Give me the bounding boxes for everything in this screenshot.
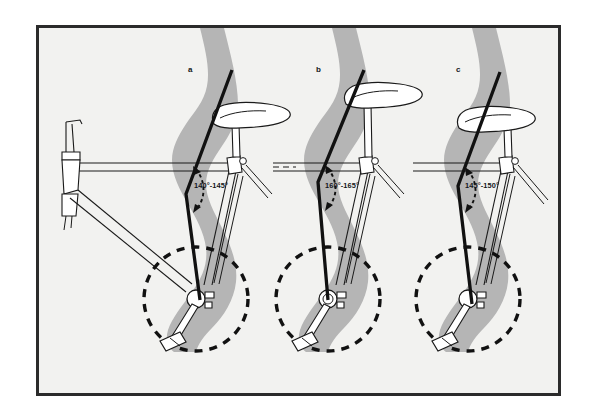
panel-b-group (273, 28, 422, 352)
seat-stay-b2 (378, 165, 404, 194)
seat-lug-b (359, 156, 374, 174)
saddle-a (212, 102, 290, 128)
fork-tip-a (64, 216, 66, 230)
seat-lug-c (499, 156, 514, 174)
down-tube-a-top (78, 190, 192, 284)
panel-a-group (62, 28, 290, 352)
seat-binder-b (372, 158, 379, 165)
seat-post-a (232, 124, 240, 157)
seat-stay-a2 (246, 165, 272, 194)
fork-crown-a (62, 160, 80, 194)
bicycle-position-illustration (0, 0, 589, 418)
panel-letter-b: b (316, 65, 321, 74)
head-tube-a (62, 152, 80, 160)
seat-stay-c1 (513, 167, 544, 204)
seat-stay-b1 (373, 167, 400, 198)
panel-letter-a: a (188, 65, 192, 74)
down-tube-a-bottom (70, 198, 186, 292)
seat-post-b (364, 104, 372, 157)
seat-binder-c (512, 158, 519, 165)
knee-angle-label-a: 140°-145° (194, 181, 228, 190)
figure-page: a b c 140°-145° 160°-165° 145°-150° (0, 0, 589, 418)
fork-blade-a (62, 194, 78, 216)
panel-letter-c: c (456, 65, 460, 74)
fork-tip-a2 (71, 216, 72, 228)
seat-stay-c2 (518, 165, 548, 200)
knee-angle-label-b: 160°-165° (325, 181, 359, 190)
seat-binder-a (240, 158, 247, 165)
panel-c-group (413, 28, 548, 352)
saddle-c (457, 106, 535, 132)
handlebar-stem-a (66, 120, 82, 152)
seat-lug-a (227, 156, 242, 174)
seat-post-c (504, 128, 512, 157)
bottom-bracket-a (187, 290, 205, 308)
seat-stay-a1 (241, 167, 268, 198)
knee-angle-label-c: 145°-150° (465, 181, 499, 190)
bottom-bracket-c (459, 290, 477, 308)
